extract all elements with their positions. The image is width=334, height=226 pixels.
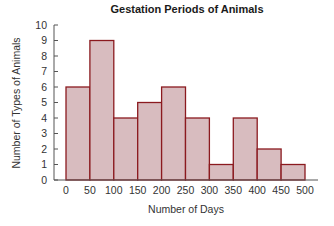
x-tick-label: 50 xyxy=(84,184,96,196)
bar-50-100 xyxy=(90,41,114,181)
x-tick-label: 450 xyxy=(272,184,290,196)
bars-group xyxy=(66,41,305,181)
x-tick-label: 250 xyxy=(177,184,195,196)
y-tick-label: 2 xyxy=(41,143,47,155)
y-tick-label: 9 xyxy=(41,34,47,46)
x-tick-label: 300 xyxy=(201,184,219,196)
y-tick-label: 10 xyxy=(35,19,47,31)
bar-350-400 xyxy=(233,118,257,180)
x-tick-label: 500 xyxy=(296,184,314,196)
bar-150-200 xyxy=(138,103,162,181)
y-tick-label: 7 xyxy=(41,65,47,77)
x-tick-label: 200 xyxy=(153,184,171,196)
bar-450-500 xyxy=(281,165,305,181)
y-tick-label: 3 xyxy=(41,127,47,139)
x-axis-label: Number of Days xyxy=(148,203,224,215)
y-tick-label: 8 xyxy=(41,50,47,62)
y-tick-label: 6 xyxy=(41,81,47,93)
x-ticks-group: 050100150200250300350400450500 xyxy=(63,184,314,196)
histogram-chart: Gestation Periods of Animals 01234567891… xyxy=(0,0,334,226)
x-tick-label: 0 xyxy=(63,184,69,196)
y-tick-label: 5 xyxy=(41,96,47,108)
chart-title: Gestation Periods of Animals xyxy=(110,3,263,15)
y-tick-label: 0 xyxy=(41,174,47,186)
x-tick-label: 350 xyxy=(225,184,243,196)
x-tick-label: 150 xyxy=(129,184,147,196)
bar-0-50 xyxy=(66,87,90,180)
bar-100-150 xyxy=(114,118,138,180)
x-tick-label: 400 xyxy=(248,184,266,196)
y-axis-label: Number of Types of Animals xyxy=(10,37,22,168)
y-tick-label: 4 xyxy=(41,112,47,124)
bar-200-250 xyxy=(162,87,186,180)
x-tick-label: 100 xyxy=(105,184,123,196)
bar-250-300 xyxy=(186,118,210,180)
y-tick-label: 1 xyxy=(41,158,47,170)
bar-300-350 xyxy=(209,165,233,181)
bar-400-450 xyxy=(257,149,281,180)
y-ticks-group: 012345678910 xyxy=(35,19,58,186)
